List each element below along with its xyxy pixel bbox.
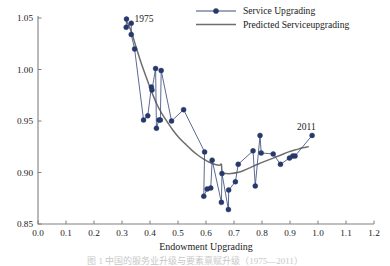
data-point [124,25,129,30]
predicted-service-upgrading-line [126,21,308,174]
axis-spine [38,16,374,224]
predicted-series-layer [126,21,308,174]
data-point [278,162,283,167]
axis-labels-layer: Endowment Upgrading [159,241,253,252]
point-annotation: 1975 [135,14,154,24]
y-tick-label: 0.95 [17,116,33,126]
service-upgrading-line [126,19,312,210]
data-point [169,119,174,124]
service-markers-layer [124,17,315,213]
data-point [293,154,298,159]
legend-item-label: Predicted Serviceupgrading [243,19,349,30]
data-point [253,183,258,188]
data-point [153,66,158,71]
data-point [202,149,207,154]
data-point [271,151,276,156]
data-point [129,32,134,37]
data-point [251,148,256,153]
data-point [149,88,154,93]
x-axis-title: Endowment Upgrading [159,241,253,252]
data-point [226,188,231,193]
data-point [236,162,241,167]
x-tick-label: 1.2 [368,228,380,238]
data-point [258,133,263,138]
data-point [201,194,206,199]
data-point [219,171,224,176]
x-tick-label: 0.7 [228,228,240,238]
data-point [259,150,264,155]
data-point [219,200,224,205]
y-tick-label: 1.05 [17,13,33,23]
legend-swatch-marker [213,8,218,13]
data-point [226,207,231,212]
x-tick-label: 1.1 [340,228,352,238]
x-tick-label: 0.8 [256,228,268,238]
x-tick-label: 0.6 [200,228,212,238]
chart-figure: 0.00.10.20.30.40.50.60.70.80.91.01.11.20… [0,0,390,266]
y-tick-label: 1.00 [17,65,33,75]
data-point [124,17,129,22]
chart-legend: Service UpgradingPredicted Serviceupgrad… [196,5,349,30]
chart-axes: 0.00.10.20.30.40.50.60.70.80.91.01.11.20… [17,13,380,238]
x-tick-label: 0.2 [88,228,100,238]
x-tick-label: 1.0 [312,228,324,238]
x-tick-label: 0.3 [116,228,128,238]
figure-caption: 图 1 中国的服务业升级与要素禀赋升级（1975—2011） [0,256,390,266]
x-tick-label: 0.4 [144,228,156,238]
point-annotation: 2011 [297,122,316,132]
data-point [208,185,213,190]
data-point [181,107,186,112]
data-point [210,158,215,163]
data-point [141,117,146,122]
y-tick-label: 0.85 [17,219,33,229]
x-tick-label: 0.9 [284,228,296,238]
y-tick-label: 0.90 [17,168,33,178]
data-point [159,68,164,73]
x-tick-label: 0.0 [32,228,44,238]
data-point [158,117,163,122]
data-point [132,46,137,51]
service-series-layer [126,19,312,210]
x-tick-label: 0.5 [172,228,184,238]
data-point [310,133,315,138]
data-point [145,113,150,118]
legend-item-label: Service Upgrading [243,5,315,16]
data-point [233,179,238,184]
x-tick-label: 0.1 [60,228,72,238]
data-point [154,126,159,131]
data-point [129,21,134,26]
